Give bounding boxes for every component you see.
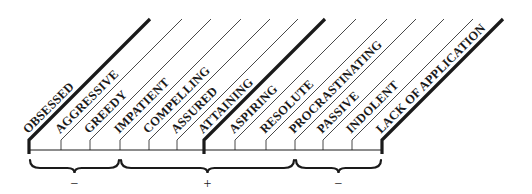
group-brace	[30, 160, 119, 173]
group-braces: −+−	[30, 160, 381, 191]
group-brace	[121, 160, 294, 173]
spectrum-diagram: OBSESSEDAGGRESSIVEGREEDYIMPATIENTCOMPELL…	[0, 0, 532, 194]
term-line	[382, 19, 503, 154]
term-line	[352, 19, 473, 150]
minus-sign: −	[335, 176, 343, 191]
plus-sign: +	[204, 176, 212, 191]
group-brace	[296, 160, 381, 173]
minus-sign: −	[71, 176, 79, 191]
